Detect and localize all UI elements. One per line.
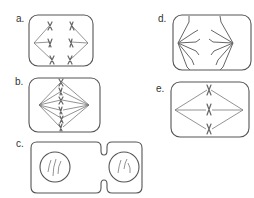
nucleus-left — [40, 152, 70, 182]
mitosis-diagram — [0, 0, 254, 198]
panel-e — [171, 82, 249, 137]
chromosomes-e — [207, 85, 211, 134]
panel-c — [31, 142, 142, 193]
chromosomes-b — [59, 79, 63, 131]
panel-d — [173, 15, 251, 70]
chromosomes-a — [48, 22, 74, 64]
panel-b — [29, 78, 100, 132]
panel-a — [29, 15, 93, 66]
